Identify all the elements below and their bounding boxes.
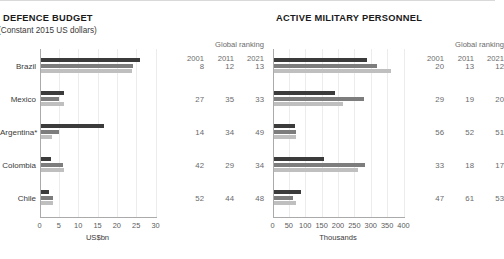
bar [274,64,377,68]
ranking-value: 20 [416,62,444,71]
ranking-value: 52 [446,128,474,137]
x-axis-baseline [40,217,157,218]
bar [41,91,64,95]
category-label: Argentina* [0,128,36,137]
x-axis-baseline [273,217,405,218]
category-label: Mexico [0,95,36,104]
gridline [322,49,323,217]
ranking-value: 27 [176,95,204,104]
ranking-value: 12 [206,62,234,71]
ranking-value: 35 [206,95,234,104]
gridline [136,49,137,217]
bar [274,196,293,200]
ranking-value: 51 [476,128,504,137]
ranking-value: 61 [446,194,474,203]
gridline [404,49,405,217]
x-axis-title: US$bn [20,233,176,242]
bar [274,124,296,128]
bar [274,97,365,101]
gridline [338,49,339,217]
ranking-value: 20 [476,95,504,104]
bar [274,130,297,134]
bar [41,69,132,73]
bar [274,69,392,73]
ranking-header-left: Global ranking [136,40,264,49]
bar [41,124,104,128]
category-label: Brazil [0,62,36,71]
ranking-value: 19 [446,95,474,104]
category-label: Chile [0,194,36,203]
bar [41,168,65,172]
x-axis-title: Thousands [253,233,424,242]
bar [274,58,367,62]
ranking-value: 42 [176,161,204,170]
ranking-value: 29 [416,95,444,104]
gridline [78,49,79,217]
gridline [371,49,372,217]
bar [41,157,52,161]
bar [41,163,63,167]
ranking-value: 34 [206,128,234,137]
ranking-value: 52 [176,194,204,203]
ranking-value: 49 [236,128,264,137]
ranking-value: 13 [236,62,264,71]
gridline [98,49,99,217]
gridline [305,49,306,217]
gridline [59,49,60,217]
ranking-value: 14 [176,128,204,137]
ranking-value: 34 [236,161,264,170]
gridline [354,49,355,217]
ranking-value: 18 [446,161,474,170]
gridline [117,49,118,217]
ranking-value: 29 [206,161,234,170]
ranking-value: 8 [176,62,204,71]
panel-subtitle-left: (Constant 2015 US dollars) [0,26,97,35]
ranking-value: 44 [206,194,234,203]
bar [274,157,325,161]
bar [274,168,359,172]
ranking-header-right: Global ranking [376,40,504,49]
bar [274,135,297,139]
bar [274,91,336,95]
ranking-value: 17 [476,161,504,170]
x-tick-label: 30 [142,221,170,230]
bar [274,201,297,205]
bar [274,190,302,194]
ranking-value: 47 [416,194,444,203]
panel-title-right: ACTIVE MILITARY PERSONNEL [276,13,422,23]
bar [41,58,141,62]
bar [41,135,52,139]
ranking-value: 12 [476,62,504,71]
bar [41,102,64,106]
category-label: Colombia [0,161,36,170]
bar [41,130,59,134]
gridline [387,49,388,217]
ranking-value: 53 [476,194,504,203]
bar [41,196,54,200]
bar [41,97,59,101]
bar [41,190,49,194]
bar [274,102,343,106]
bar [41,201,54,205]
ranking-value: 48 [236,194,264,203]
gridline [156,49,157,217]
panel-title-left: DEFENCE BUDGET [3,13,93,23]
ranking-value: 33 [416,161,444,170]
x-tick-label: 400 [390,221,418,230]
bar [274,163,366,167]
ranking-value: 13 [446,62,474,71]
ranking-value: 33 [236,95,264,104]
bar [41,64,134,68]
ranking-value: 56 [416,128,444,137]
